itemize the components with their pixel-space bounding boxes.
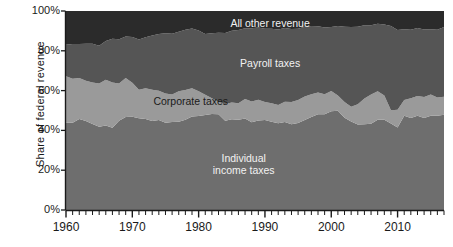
- stacked-area-chart: Share of federal revenue 0%20%40%60%80%1…: [0, 0, 453, 247]
- x-tick-label: 2010: [375, 220, 421, 234]
- y-tick-label: 40%: [20, 123, 60, 135]
- y-tick-label: 0%: [20, 203, 60, 215]
- x-tick-label: 1970: [109, 220, 155, 234]
- y-tick-label: 80%: [20, 44, 60, 56]
- plot-area: All other revenuePayroll taxesCorporate …: [66, 11, 444, 210]
- x-tick-label: 1990: [242, 220, 288, 234]
- x-tick-label: 2000: [308, 220, 354, 234]
- y-tick-label: 60%: [20, 84, 60, 96]
- y-tick-label: 20%: [20, 163, 60, 175]
- y-tick-label: 100%: [20, 4, 60, 16]
- area-bands: [66, 11, 444, 210]
- area-band: [66, 111, 444, 210]
- x-tick-label: 1960: [43, 220, 89, 234]
- x-tick-label: 1980: [176, 220, 222, 234]
